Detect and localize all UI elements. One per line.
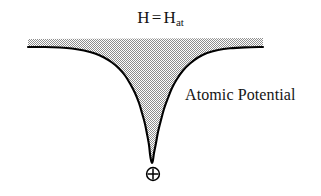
- atomic-potential-figure: H=Hat Atomic Potential: [0, 0, 321, 196]
- field-equation-lead: H: [137, 8, 149, 27]
- field-equation-symbol: H: [163, 8, 175, 27]
- field-equation-equals: =: [150, 8, 164, 27]
- atomic-potential-annotation: Atomic Potential: [185, 87, 295, 103]
- circled-plus-icon: [145, 166, 161, 182]
- field-equation-subscript: at: [176, 16, 184, 28]
- field-equation-label: H=Hat: [0, 9, 321, 26]
